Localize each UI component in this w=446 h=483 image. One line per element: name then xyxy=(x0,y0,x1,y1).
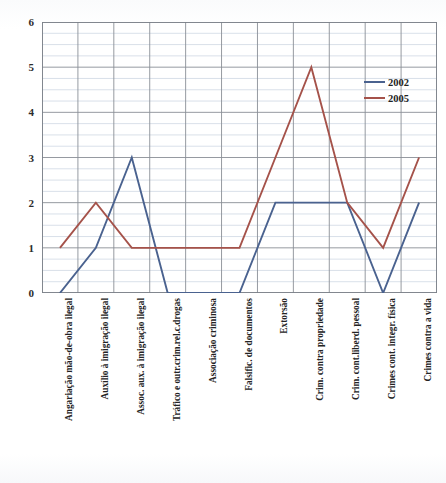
y-tick-label: 0 xyxy=(29,287,35,299)
plot-area xyxy=(42,22,437,293)
y-tick-label: 1 xyxy=(29,242,35,254)
y-tick-label: 5 xyxy=(29,61,35,73)
legend-item-2002[interactable]: 2002 xyxy=(364,74,438,90)
x-category-label: Extorsão xyxy=(279,298,289,470)
chart-legend: 20022005 xyxy=(364,74,438,106)
y-tick-label: 3 xyxy=(29,152,35,164)
legend-label: 2005 xyxy=(388,93,409,104)
chart-svg xyxy=(42,22,437,293)
y-tick-label: 4 xyxy=(29,106,35,118)
legend-swatch-icon xyxy=(364,81,385,83)
x-category-label: Crimes contra a vida xyxy=(423,298,433,470)
x-category-label: Angariação mão-de-obra ilegal xyxy=(64,298,74,470)
chart-page: 0123456 Angariação mão-de-obra ilegalAux… xyxy=(0,0,446,483)
x-category-label: Assoc. aux. à imigração ilegal xyxy=(136,298,146,470)
y-axis: 0123456 xyxy=(0,0,42,483)
x-category-label: Falsific. de documentos xyxy=(244,298,254,470)
chart-title xyxy=(0,1,446,10)
x-category-label: Associação criminosa xyxy=(208,298,218,470)
legend-item-2005[interactable]: 2005 xyxy=(364,90,438,106)
x-category-label: Crim. cont.liberd. pessoal xyxy=(351,298,361,470)
legend-label: 2002 xyxy=(388,77,409,88)
x-axis-categories: Angariação mão-de-obra ilegalAuxílio à i… xyxy=(42,298,437,478)
legend-swatch-icon xyxy=(364,97,385,99)
x-category-label: Crim. contra propriedade xyxy=(315,298,325,470)
x-category-label: Auxílio à imigração ilegal xyxy=(100,298,110,470)
x-category-label: Tráfico e outr.crim.rel.c.drogas xyxy=(172,298,182,470)
y-tick-label: 2 xyxy=(29,197,35,209)
y-tick-label: 6 xyxy=(29,16,35,28)
x-category-label: Crimes cont. integr. física xyxy=(387,298,397,470)
